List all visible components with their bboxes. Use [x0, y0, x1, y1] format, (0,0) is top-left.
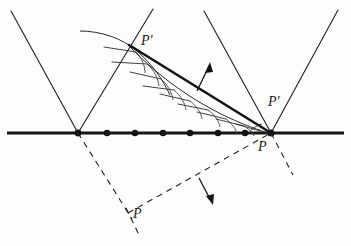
label-p-bottom: P [133, 207, 142, 221]
thick-chord-line [129, 45, 271, 133]
axis-dot [132, 130, 138, 136]
axis-dot [242, 130, 248, 136]
wavefront-hook [190, 101, 202, 119]
left-light-cone [11, 9, 153, 133]
left-cone-left-arm [11, 11, 78, 133]
right-light-cone [204, 10, 338, 133]
right-cone-right-arm [271, 10, 338, 133]
wavefront-hatch [160, 94, 190, 101]
axis-dot [104, 130, 110, 136]
label-p-prime-top: P' [141, 34, 153, 48]
axis-dot [160, 130, 166, 136]
geometry-diagram: P' P' P P [0, 0, 351, 246]
axis-dot [187, 130, 193, 136]
diagram-canvas [0, 0, 351, 246]
wavefront-hatch [112, 62, 147, 64]
dashed-right-vertex-stub [271, 133, 293, 175]
upward-arrow-head [205, 62, 213, 73]
wavefront-hatch-group [104, 47, 260, 131]
downward-propagation-arrow [199, 178, 214, 205]
upward-propagation-arrow [197, 62, 213, 91]
dashed-right-reflected-ray [128, 133, 271, 213]
axis-dot [215, 130, 221, 136]
downward-arrow-head [206, 194, 214, 205]
wavefront-hook-group [136, 52, 254, 136]
dashed-left-reflected-ray [78, 133, 132, 219]
label-p-right: P [258, 140, 267, 154]
left-cone-right-arm [78, 9, 153, 133]
label-p-prime-right: P' [268, 95, 280, 109]
